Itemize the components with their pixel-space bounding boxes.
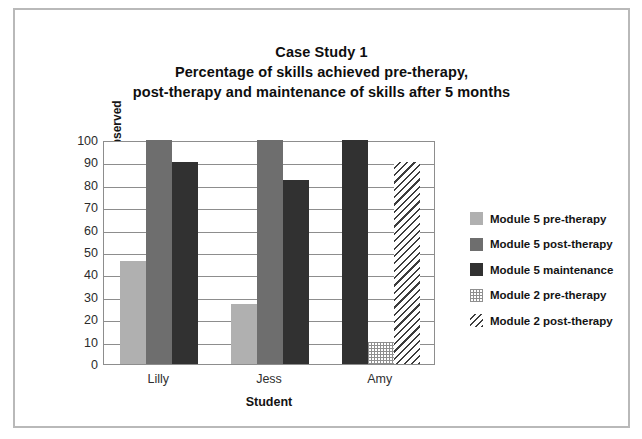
- bar: [368, 342, 394, 364]
- legend-item-label: Module 2 post-therapy: [490, 315, 613, 327]
- bar: [231, 304, 257, 364]
- y-axis-tick-label: 0: [59, 359, 98, 371]
- y-axis-tick-label: 10: [59, 337, 98, 349]
- chart-figure-frame: Case Study 1 Percentage of skills achiev…: [13, 8, 630, 428]
- x-axis-tick-label: Jess: [256, 372, 282, 386]
- chart-legend: Module 5 pre-therapyModule 5 post-therap…: [470, 206, 630, 334]
- legend-item-label: Module 5 post-therapy: [490, 238, 613, 250]
- x-axis-tick-label: Lilly: [148, 372, 170, 386]
- y-axis-tick-label: 20: [59, 314, 98, 326]
- y-axis-tick-label: 70: [59, 202, 98, 214]
- y-axis-tick-label: 40: [59, 269, 98, 281]
- x-axis-tick-label: Amy: [367, 372, 392, 386]
- legend-swatch-icon: [470, 289, 483, 302]
- legend-swatch-icon: [470, 314, 483, 327]
- legend-swatch-icon: [470, 238, 483, 251]
- y-axis-tick-label: 100: [59, 135, 98, 147]
- bar: [146, 140, 172, 364]
- bar: [120, 261, 146, 364]
- legend-item[interactable]: Module 5 post-therapy: [470, 232, 630, 258]
- plot-area: [103, 141, 435, 365]
- legend-swatch-icon: [470, 212, 483, 225]
- y-axis-tick-label: 50: [59, 247, 98, 259]
- chart-title: Case Study 1 Percentage of skills achiev…: [15, 42, 628, 102]
- chart-title-line-3: post-therapy and maintenance of skills a…: [15, 82, 628, 102]
- y-axis-tick-label: 30: [59, 292, 98, 304]
- legend-item-label: Module 2 pre-therapy: [490, 289, 606, 301]
- y-axis-tick-labels: 0102030405060708090100: [59, 141, 98, 365]
- x-axis-tick-labels: LillyJessAmy: [103, 372, 435, 390]
- legend-item[interactable]: Module 2 pre-therapy: [470, 283, 630, 309]
- legend-swatch-icon: [470, 263, 483, 276]
- bar: [342, 140, 368, 364]
- legend-item[interactable]: Module 5 pre-therapy: [470, 206, 630, 232]
- legend-item-label: Module 5 pre-therapy: [490, 213, 606, 225]
- legend-item-label: Module 5 maintenance: [490, 264, 613, 276]
- legend-item[interactable]: Module 5 maintenance: [470, 257, 630, 283]
- y-axis-tick-label: 90: [59, 157, 98, 169]
- y-axis-tick-label: 80: [59, 180, 98, 192]
- bar: [394, 162, 420, 364]
- bar: [257, 140, 283, 364]
- chart-title-line-1: Case Study 1: [15, 42, 628, 62]
- chart-title-line-2: Percentage of skills achieved pre-therap…: [15, 62, 628, 82]
- legend-item[interactable]: Module 2 post-therapy: [470, 308, 630, 334]
- x-axis-title: Student: [103, 395, 435, 409]
- bar: [283, 180, 309, 364]
- y-axis-tick-label: 60: [59, 225, 98, 237]
- bar: [172, 162, 198, 364]
